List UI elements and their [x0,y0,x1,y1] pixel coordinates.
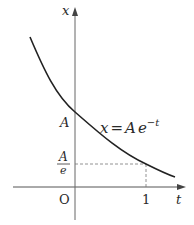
equation-equals: = [110,119,123,137]
x-tick-a-over-e-denominator: e [60,164,67,177]
x-tick-a-over-e-numerator: A [58,150,68,164]
equation-base: e [138,119,147,137]
x-axis-arrow-icon [72,7,78,16]
x-tick-a: A [59,115,69,130]
x-axis-label: x [62,3,70,18]
t-tick-one: 1 [142,192,150,207]
equation-exponent: −t [147,117,160,128]
decay-diagram: x t O 1 A A e x=Ae−t [0,0,194,225]
origin-label: O [59,192,70,207]
equation-lhs: x [100,119,109,137]
decay-curve [30,37,175,177]
curve-equation: x=Ae−t [100,117,160,137]
equation-amplitude: A [123,119,136,137]
t-axis-label: t [176,192,182,207]
t-axis-arrow-icon [177,184,186,190]
